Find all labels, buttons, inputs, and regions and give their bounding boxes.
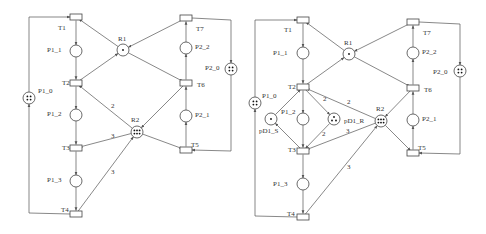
arc [79,19,118,47]
place-circle [70,175,82,187]
arc-weight: 3 [111,168,115,176]
token [136,133,138,135]
transition-t2 [297,84,309,90]
arc [79,134,131,148]
transition-label: T5 [418,144,426,152]
place-p2-1 [407,114,419,126]
place-label: P1_1 [47,46,62,54]
arc-weight: 3 [346,127,350,135]
token [378,122,380,124]
transition-label: T3 [288,146,296,154]
place-p1-0 [249,97,261,109]
token [253,104,255,106]
arc [306,22,344,50]
token [253,101,255,103]
transition-label: T1 [284,26,292,34]
place-label: P1_0 [262,92,277,100]
arc [79,53,118,81]
place-circle [70,109,82,121]
place-circle [297,178,309,190]
place-r2 [375,115,387,127]
token [232,67,234,69]
arc [143,134,183,149]
token [122,49,124,51]
arc-weight: 3 [347,163,351,171]
token [348,53,350,55]
arc-weight: 3 [111,132,115,140]
place-p1-1 [297,47,309,59]
arc [128,53,183,82]
place-p1-0 [23,92,35,104]
token [232,70,234,72]
place-label: P1_1 [273,49,288,57]
token [383,119,385,121]
place-p2-0 [454,65,466,77]
place-circle [23,92,35,104]
place-r1 [343,48,355,60]
transition-label: T2 [62,79,70,87]
transition-label: T1 [58,24,66,32]
token [331,120,333,122]
transition-t7 [407,19,419,25]
place-label: R1 [118,35,127,43]
arcs-layer [29,17,460,217]
place-circle [407,114,419,126]
arc [354,24,410,52]
transition-label: T4 [61,206,69,214]
transition-label: T2 [288,83,296,91]
arc [128,20,183,48]
token [30,96,32,98]
place-label: pD1_R [344,117,365,125]
place-label: R2 [376,105,385,113]
transition-t1 [297,17,309,23]
place-p2-1 [180,110,192,122]
petri-net-diagram: P1_0P1_1P1_2P1_3R1R2P2_0P2_1P2_2T1T2T3T4… [0,0,486,234]
token [383,122,385,124]
place-label: P2_2 [422,48,437,56]
token [458,72,460,74]
token [229,67,231,69]
transition-t4 [297,214,309,220]
arc [385,91,410,117]
token [270,118,272,120]
transition-t3 [297,148,309,154]
token [380,122,382,124]
arc-weight: 2 [323,95,327,103]
place-p1-3 [70,175,82,187]
place-label: R1 [344,39,353,47]
place-circle [454,65,466,77]
token [30,99,32,101]
token [27,96,29,98]
token [461,72,463,74]
place-circle [225,63,237,75]
place-label: P1_2 [47,110,62,118]
token [139,130,141,132]
place-label: R2 [131,116,140,124]
token [229,70,231,72]
place-p2-2 [180,42,192,54]
arc-weight: 2 [322,130,326,138]
arc-weight: 2 [111,102,115,110]
arc [275,123,300,148]
arc [306,57,344,84]
transition-t2 [70,80,82,86]
place-circle [131,126,143,138]
transition-t7 [180,15,192,21]
token [461,69,463,71]
token [256,104,258,106]
arc [306,88,375,118]
token [134,133,136,135]
place-circle [375,115,387,127]
place-p1-2 [297,113,309,125]
place-pd1-r [328,113,340,125]
arc-weight: 2 [347,98,351,106]
place-circle [249,97,261,109]
place-label: P2_2 [195,43,210,51]
arc [354,57,410,87]
place-label: P1_3 [273,180,288,188]
token [378,119,380,121]
token [27,99,29,101]
place-circle [180,42,192,54]
place-label: P2_1 [422,115,437,123]
place-label: P1_3 [47,176,62,184]
